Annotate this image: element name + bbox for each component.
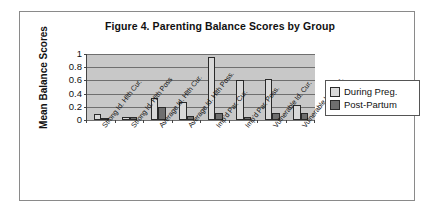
chart-legend: During Preg.Post-Partum [325,80,420,116]
y-tick-label: 0.4 [69,89,82,99]
y-tick-label: 1 [77,49,82,59]
x-tick-mark [115,120,116,123]
y-axis-title: Mean Balance Scores [38,23,49,133]
chart-title: Figure 4. Parenting Balance Scores by Gr… [60,20,380,32]
y-tick-label: 0.6 [69,75,82,85]
legend-item: During Preg. [330,86,415,97]
figure-frame: Figure 4. Parenting Balance Scores by Gr… [19,11,415,201]
legend-label: During Preg. [344,86,397,97]
y-tick-label: 0.2 [69,102,82,112]
x-tick-mark [86,120,87,123]
y-axis-tick-labels: 00.20.40.60.81 [54,48,82,126]
x-axis-category-labels: Strong Id. Hlth Cur.Strong Id. Hlth Poss… [78,124,378,204]
legend-swatch-icon [330,87,340,97]
y-tick-label: 0.8 [69,62,82,72]
x-tick-mark [172,120,173,123]
legend-swatch-icon [330,100,340,110]
legend-item: Post-Partum [330,99,415,110]
x-tick-mark [286,120,287,123]
x-tick-mark [229,120,230,123]
legend-label: Post-Partum [344,99,397,110]
